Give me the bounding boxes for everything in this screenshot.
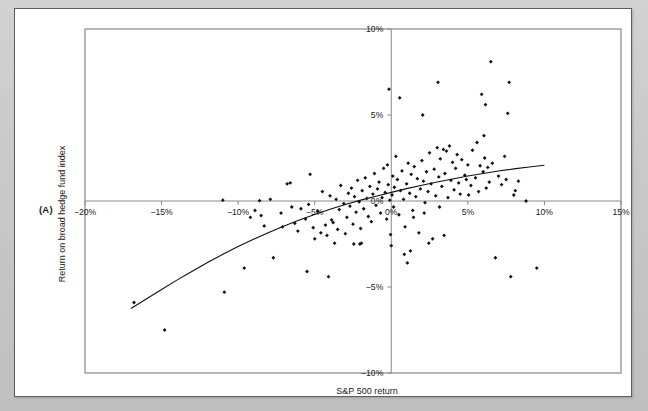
svg-text:−10%: −10% bbox=[361, 368, 384, 378]
svg-text:−15%: −15% bbox=[150, 207, 173, 217]
svg-text:10%: 10% bbox=[536, 207, 554, 217]
svg-text:5%: 5% bbox=[462, 207, 475, 217]
scatter-plot-figure: −20%−15%−10%−5%0%5%10%15%−10%−5%0%5%10% bbox=[15, 9, 633, 398]
scatter-points bbox=[132, 60, 539, 332]
fit-curve bbox=[131, 165, 544, 308]
svg-text:10%: 10% bbox=[366, 24, 384, 34]
svg-text:0%: 0% bbox=[385, 207, 398, 217]
svg-text:−5%: −5% bbox=[366, 282, 384, 292]
svg-text:5%: 5% bbox=[371, 110, 384, 120]
svg-text:−20%: −20% bbox=[74, 207, 97, 217]
scanned-page-background: (A) Return on broad hedge fund index S&P… bbox=[0, 0, 648, 411]
svg-text:15%: 15% bbox=[612, 207, 630, 217]
svg-text:−10%: −10% bbox=[227, 207, 250, 217]
page-sheet: (A) Return on broad hedge fund index S&P… bbox=[14, 8, 632, 397]
axis-lines bbox=[85, 29, 621, 373]
